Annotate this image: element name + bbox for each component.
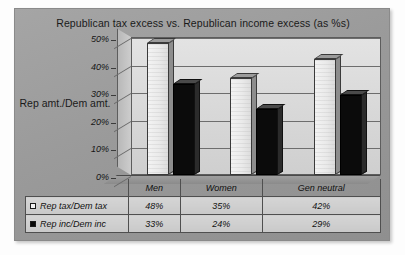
bar-gen-neutral-series-1[interactable]: [314, 59, 336, 175]
plot-area[interactable]: 50%40%30%20%10%0%: [109, 37, 381, 187]
bar-face: [314, 59, 336, 175]
chart-object[interactable]: Republican tax excess vs. Republican inc…: [14, 8, 390, 241]
filled-square-icon: [30, 221, 36, 227]
chart-title: Republican tax excess vs. Republican inc…: [15, 17, 391, 29]
hollow-square-icon: [30, 203, 36, 209]
bar-men-series-2[interactable]: [173, 84, 195, 175]
y-axis-ticks: 50%40%30%20%10%0%: [75, 37, 109, 175]
table-header-row: MenWomenGen neutral: [26, 179, 381, 197]
data-table: MenWomenGen neutralRep tax/Dem tax48%35%…: [25, 179, 381, 233]
y-tick-mark: [111, 95, 116, 96]
y-tick-label: 10%: [75, 144, 109, 154]
y-tick-mark: [111, 150, 116, 151]
y-tick-mark: [111, 40, 116, 41]
y-tick-mark: [111, 68, 116, 69]
y-tick-label: 40%: [75, 62, 109, 72]
bars-layer: [131, 37, 381, 175]
bar-women-series-1[interactable]: [230, 78, 252, 175]
legend-label: Rep tax/Dem tax: [40, 201, 107, 211]
table-value-cell: 29%: [262, 215, 380, 233]
table-value-cell: 24%: [180, 215, 262, 233]
table-value-cell: 42%: [262, 197, 380, 215]
y-tick-label: 30%: [75, 89, 109, 99]
bar-side-face: [194, 80, 200, 175]
bar-gen-neutral-series-2[interactable]: [340, 95, 362, 175]
y-tick-mark: [111, 123, 116, 124]
legend-cell-series-1: Rep tax/Dem tax: [26, 197, 129, 215]
y-tick-label: 20%: [75, 117, 109, 127]
table-value-cell: 48%: [128, 197, 180, 215]
table-row: Rep tax/Dem tax48%35%42%: [26, 197, 381, 215]
table-value-cell: 33%: [128, 215, 180, 233]
bar-face: [147, 43, 169, 175]
bar-side-face: [361, 91, 367, 175]
legend-cell-series-2: Rep inc/Dem inc: [26, 215, 129, 233]
bar-side-face: [277, 105, 283, 175]
y-tick-label: 50%: [75, 34, 109, 44]
table-row: Rep inc/Dem inc33%24%29%: [26, 215, 381, 233]
bar-women-series-2[interactable]: [256, 109, 278, 175]
bar-face: [340, 95, 362, 175]
bar-face: [230, 78, 252, 175]
table-value-cell: 35%: [180, 197, 262, 215]
screenshot-root: Republican tax excess vs. Republican inc…: [0, 0, 405, 255]
table-column-header: Gen neutral: [262, 179, 380, 197]
legend-label: Rep inc/Dem inc: [40, 219, 106, 229]
table-column-header: Men: [128, 179, 180, 197]
bar-face: [256, 109, 278, 175]
bar-men-series-1[interactable]: [147, 43, 169, 175]
bar-face: [173, 84, 195, 175]
table-column-header: Women: [180, 179, 262, 197]
table-corner-cell: [26, 179, 129, 197]
